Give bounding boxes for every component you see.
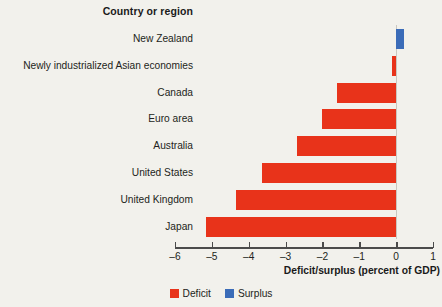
bar-chart: Country or region New ZealandNewly indus…	[0, 0, 442, 307]
plot-area	[0, 0, 442, 248]
x-tick-label: –5	[197, 251, 227, 262]
x-tick-label: 1	[418, 251, 442, 262]
legend-item-deficit[interactable]: Deficit	[170, 288, 211, 299]
bar-deficit	[337, 83, 396, 103]
bar-deficit	[392, 56, 396, 76]
x-tick-label: 0	[381, 251, 411, 262]
legend-label: Deficit	[183, 288, 211, 299]
legend-swatch-surplus-icon	[225, 289, 234, 298]
x-tick-mark	[396, 242, 397, 248]
bar-deficit	[236, 190, 396, 210]
x-tick-mark	[433, 242, 434, 248]
bar-surplus	[396, 29, 403, 49]
x-tick-label: –2	[307, 251, 337, 262]
x-tick-mark	[212, 242, 213, 248]
x-tick-label: –6	[160, 251, 190, 262]
chart-legend: DeficitSurplus	[0, 288, 442, 299]
x-tick-label: –1	[344, 251, 374, 262]
legend-label: Surplus	[238, 288, 273, 299]
x-tick-label: –4	[234, 251, 264, 262]
x-tick-mark	[286, 242, 287, 248]
legend-item-surplus[interactable]: Surplus	[225, 288, 273, 299]
x-tick-mark	[322, 242, 323, 248]
x-tick-label: –3	[271, 251, 301, 262]
zero-baseline	[396, 25, 397, 239]
bar-deficit	[206, 217, 396, 237]
legend-swatch-deficit-icon	[170, 289, 179, 298]
x-tick-mark	[249, 242, 250, 248]
bar-deficit	[322, 109, 396, 129]
x-tick-mark	[359, 242, 360, 248]
x-axis-title: Deficit/surplus (percent of GDP)	[175, 265, 440, 276]
x-axis-line	[175, 247, 433, 249]
x-tick-mark	[175, 242, 176, 248]
bar-deficit	[297, 136, 397, 156]
bar-deficit	[262, 163, 397, 183]
